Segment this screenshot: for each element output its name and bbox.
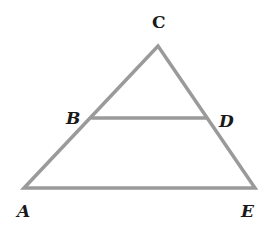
- vertex-label-d: D: [218, 111, 234, 131]
- vertex-label-a: A: [15, 201, 30, 221]
- vertex-label-c: C: [152, 12, 166, 32]
- vertex-label-b: B: [65, 108, 80, 128]
- triangle-diagram: C B D A E: [0, 0, 268, 226]
- vertex-label-e: E: [240, 201, 255, 221]
